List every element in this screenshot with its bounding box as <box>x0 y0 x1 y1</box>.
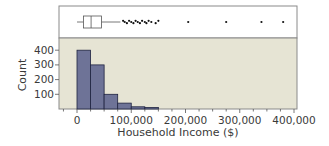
x-tick-label: 200,000 <box>164 114 207 126</box>
outlier-point <box>130 21 132 23</box>
outlier-point <box>148 20 150 22</box>
outlier-point <box>137 21 139 23</box>
outlier-point <box>157 20 159 22</box>
outlier-point <box>128 20 130 22</box>
outlier-point <box>141 20 143 22</box>
y-tick-label: 200 <box>34 73 54 85</box>
histogram-boxplot-chart: 0100,000200,000300,000400,000 1002003004… <box>0 0 329 146</box>
y-axis: 100200300400 <box>34 44 59 100</box>
outlier-point <box>139 22 141 24</box>
x-tick-label: 400,000 <box>272 114 315 126</box>
histogram-bar <box>104 94 118 109</box>
x-axis-title: Household Income ($) <box>117 126 238 139</box>
histogram-bar <box>91 65 105 109</box>
histogram-bar <box>118 103 132 109</box>
x-tick-label: 300,000 <box>218 114 261 126</box>
outlier-point <box>126 22 128 24</box>
box-iqr <box>84 16 102 28</box>
y-tick-label: 100 <box>34 88 54 100</box>
x-tick-label: 100,000 <box>110 114 153 126</box>
y-tick-label: 300 <box>34 58 54 70</box>
outlier-point <box>145 22 147 24</box>
outlier-point <box>155 22 157 24</box>
outlier-point <box>124 21 126 23</box>
outlier-point <box>150 21 152 23</box>
outlier-point <box>260 21 262 23</box>
outlier-point <box>132 22 134 24</box>
outlier-point <box>225 21 227 23</box>
outlier-point <box>187 21 189 23</box>
histogram-bar <box>145 108 159 109</box>
histogram-bar <box>131 107 145 109</box>
x-tick-label: 0 <box>74 114 81 126</box>
y-tick-label: 400 <box>34 44 54 56</box>
outlier-point <box>134 20 136 22</box>
histogram-bar <box>77 50 91 109</box>
outlier-point <box>282 21 284 23</box>
x-axis: 0100,000200,000300,000400,000 <box>63 109 315 126</box>
y-axis-title: Count <box>16 58 29 91</box>
